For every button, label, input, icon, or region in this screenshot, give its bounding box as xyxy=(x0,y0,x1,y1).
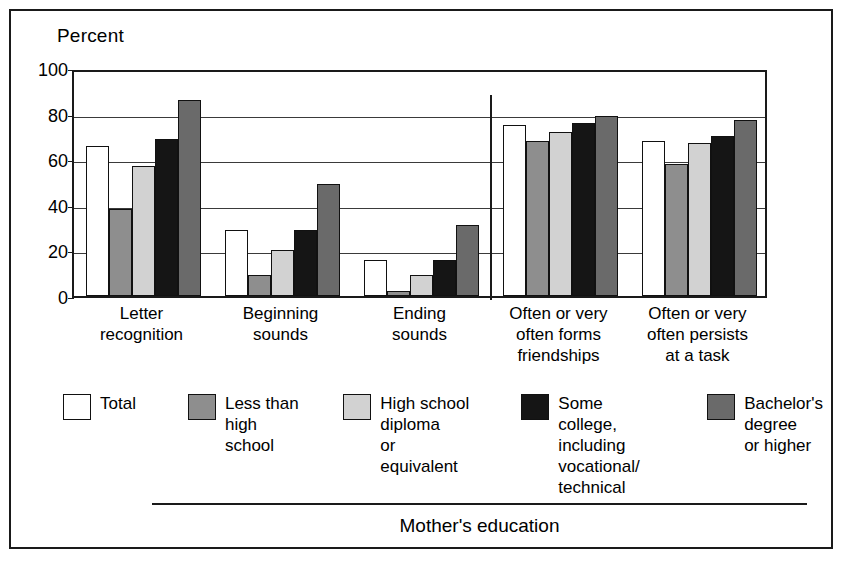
x-axis-label: Often or veryoften formsfriendships xyxy=(489,303,628,366)
x-axis-label-line: Often or very xyxy=(628,303,767,324)
bar xyxy=(271,250,294,296)
bar-group-bars xyxy=(630,72,769,296)
bar xyxy=(294,230,317,296)
bar xyxy=(433,260,456,296)
legend-swatch-less-than-high-school xyxy=(188,394,216,420)
x-axis-label-line: at a task xyxy=(628,345,767,366)
bar xyxy=(410,275,433,296)
bar xyxy=(317,184,340,296)
x-axis-label-line: sounds xyxy=(350,324,489,345)
x-axis-label-line: recognition xyxy=(72,324,211,345)
bar xyxy=(456,225,479,296)
bar xyxy=(86,146,109,296)
footer-label: Mother's education xyxy=(152,515,807,537)
bar-group-bars xyxy=(213,72,352,296)
x-axis-label-line: Ending xyxy=(350,303,489,324)
x-axis-label-line: sounds xyxy=(211,324,350,345)
y-tick-mark xyxy=(68,298,74,299)
bar-group xyxy=(491,72,630,296)
bar-group xyxy=(213,72,352,296)
x-axis-label-line: Beginning xyxy=(211,303,350,324)
bar-group xyxy=(352,72,491,296)
y-tick-label: 100 xyxy=(14,61,68,79)
bar-group xyxy=(630,72,769,296)
bar xyxy=(572,123,595,296)
footer-rule xyxy=(152,503,807,505)
legend-item[interactable]: Bachelor's degree or higher xyxy=(707,393,823,456)
legend-item[interactable]: High school diploma or equivalent xyxy=(343,393,469,477)
group-divider-line xyxy=(490,95,492,300)
bar xyxy=(248,275,271,296)
bar xyxy=(364,260,387,296)
bar-group-bars xyxy=(74,72,213,296)
legend-item[interactable]: Total xyxy=(63,393,136,420)
bar xyxy=(665,164,688,296)
bar xyxy=(711,136,734,296)
x-axis-label: Often or veryoften persistsat a task xyxy=(628,303,767,366)
bar xyxy=(688,143,711,296)
bar xyxy=(109,209,132,296)
bar-group xyxy=(74,72,213,296)
bar xyxy=(734,120,757,296)
bar-group-bars xyxy=(352,72,491,296)
legend-swatch-bachelors-degree xyxy=(707,394,735,420)
legend-item[interactable]: Some college, including vocational/ tech… xyxy=(521,393,657,498)
legend-swatch-some-college xyxy=(521,394,549,420)
x-axis-label: Endingsounds xyxy=(350,303,489,345)
legend-item-label: Bachelor's degree or higher xyxy=(744,393,823,456)
bar xyxy=(595,116,618,296)
bar xyxy=(642,141,665,296)
chart-legend: TotalLess than high schoolHigh school di… xyxy=(63,393,823,498)
x-axis-label-line: often forms xyxy=(489,324,628,345)
x-axis-label-line: often persists xyxy=(628,324,767,345)
legend-item-label: Some college, including vocational/ tech… xyxy=(558,393,657,498)
bar-group-bars xyxy=(491,72,630,296)
y-axis-title: Percent xyxy=(57,25,124,47)
plot-area xyxy=(72,70,767,298)
legend-item-label: Less than high school xyxy=(225,393,303,456)
bar xyxy=(178,100,201,296)
bar xyxy=(549,132,572,296)
bar xyxy=(155,139,178,296)
figure-frame: Percent 020406080100 LetterrecognitionBe… xyxy=(9,9,833,549)
legend-item[interactable]: Less than high school xyxy=(188,393,303,456)
x-axis-label: Beginningsounds xyxy=(211,303,350,345)
bar xyxy=(225,230,248,296)
y-tick-label: 80 xyxy=(14,107,68,125)
x-axis-category-labels: LetterrecognitionBeginningsoundsEndingso… xyxy=(72,303,767,363)
y-axis-tick-labels: 020406080100 xyxy=(11,70,68,298)
x-axis-label-line: Letter xyxy=(72,303,211,324)
legend-swatch-total xyxy=(63,394,91,420)
bar xyxy=(526,141,549,296)
legend-item-label: High school diploma or equivalent xyxy=(380,393,469,477)
bar xyxy=(132,166,155,296)
y-tick-label: 0 xyxy=(14,289,68,307)
bar xyxy=(503,125,526,296)
legend-item-label: Total xyxy=(100,393,136,414)
y-tick-label: 40 xyxy=(14,198,68,216)
x-axis-label-line: Often or very xyxy=(489,303,628,324)
x-axis-label-line: friendships xyxy=(489,345,628,366)
x-axis-label: Letterrecognition xyxy=(72,303,211,345)
y-tick-label: 20 xyxy=(14,243,68,261)
y-tick-label: 60 xyxy=(14,152,68,170)
legend-swatch-high-school-diploma xyxy=(343,394,371,420)
bar xyxy=(387,291,410,296)
